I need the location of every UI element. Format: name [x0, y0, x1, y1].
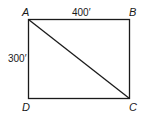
dimension-left: 300′: [8, 53, 27, 64]
vertex-label-d: D: [22, 101, 30, 113]
dimension-top: 400′: [72, 7, 91, 18]
vertex-label-c: C: [129, 101, 137, 113]
diagonal-ac: [29, 20, 130, 99]
vertex-label-a: A: [21, 6, 29, 18]
vertex-label-b: B: [129, 6, 136, 18]
rectangle-diagram: A B C D 400′ 300′: [0, 0, 141, 114]
